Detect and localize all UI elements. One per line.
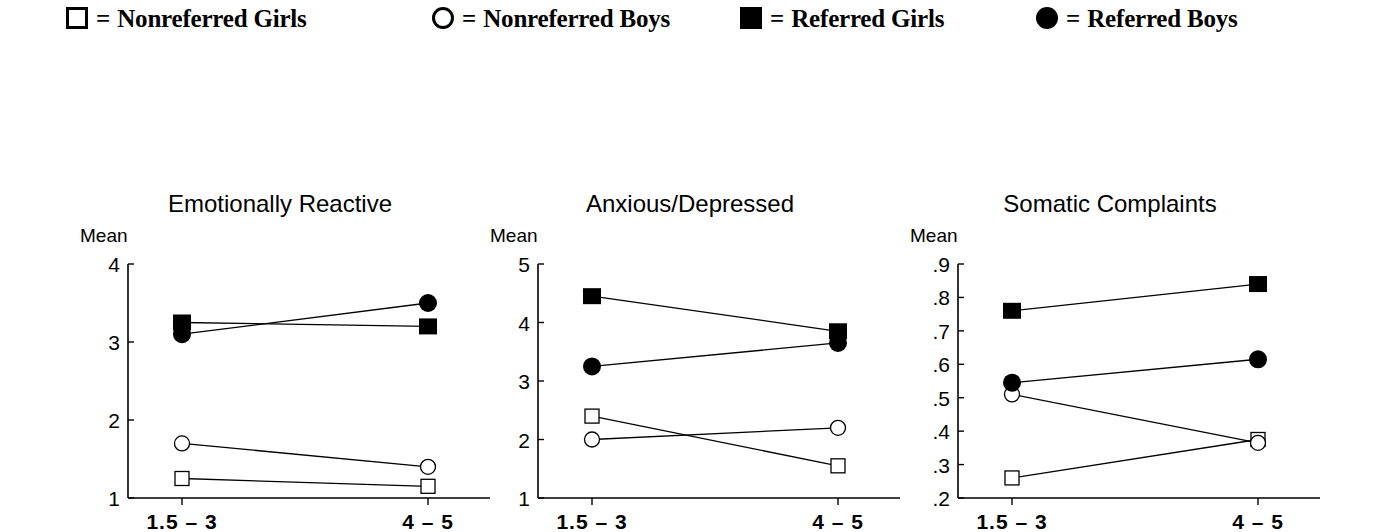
filled-circle-marker-icon: [1036, 7, 1058, 29]
y-axis-tick-label: .3: [932, 454, 950, 477]
y-axis-tick-label: .8: [932, 286, 950, 309]
series-line: [182, 479, 428, 487]
series-line: [182, 303, 428, 334]
data-point-filled-square: [419, 318, 437, 334]
y-axis-tick-label: .9: [932, 253, 950, 276]
y-axis-tick-label: .5: [932, 387, 950, 410]
y-axis-tick-label: 4: [518, 312, 530, 335]
y-axis-tick-label: 1: [108, 487, 120, 510]
y-axis-tick-label: .7: [932, 320, 950, 343]
y-axis-tick-label: 2: [518, 429, 530, 452]
chart-panel-somatic-complaints: Somatic ComplaintsMean.2.3.4.5.6.7.8.91.…: [890, 190, 1330, 532]
x-axis-tick-label: 1.5 – 3: [556, 510, 627, 532]
plot-area: 12341.5 – 34 – 5: [60, 190, 500, 532]
open-circle-marker-icon: [432, 7, 454, 29]
data-point-filled-circle: [419, 294, 437, 312]
y-axis-tick-label: 4: [108, 253, 120, 276]
y-axis-tick-label: 1: [518, 487, 530, 510]
legend-item-nonreferred-boys: =Nonreferred Boys: [432, 2, 670, 34]
data-point-filled-circle: [829, 334, 847, 352]
legend-item-referred-girls: =Referred Girls: [740, 2, 944, 34]
plot-area: .2.3.4.5.6.7.8.91.5 – 34 – 5: [890, 190, 1330, 532]
y-axis-tick-label: 3: [518, 370, 530, 393]
legend-item-nonreferred-girls: =Nonreferred Girls: [66, 2, 307, 34]
series-line: [592, 296, 838, 331]
data-point-open-square: [585, 409, 599, 423]
data-point-open-square: [1005, 471, 1019, 485]
x-axis-tick-label: 4 – 5: [812, 510, 864, 532]
legend: =Nonreferred Girls=Nonreferred Boys=Refe…: [0, 0, 1382, 40]
y-axis-tick-label: .4: [932, 420, 950, 443]
series-line: [1012, 284, 1258, 311]
series-line: [1012, 359, 1258, 382]
series-line: [1012, 440, 1258, 478]
data-point-open-circle: [1251, 435, 1266, 450]
series-line: [182, 443, 428, 466]
legend-item-label: Referred Girls: [791, 6, 944, 31]
data-point-filled-square: [1003, 303, 1021, 319]
legend-item-label: Referred Boys: [1087, 6, 1237, 31]
data-point-filled-circle: [173, 325, 191, 343]
y-axis-tick-label: .2: [932, 487, 950, 510]
data-point-filled-square: [583, 288, 601, 304]
data-point-open-square: [831, 459, 845, 473]
x-axis-tick-label: 1.5 – 3: [976, 510, 1047, 532]
legend-item-label: Nonreferred Boys: [483, 6, 670, 31]
chart-panel-anxious-depressed: Anxious/DepressedMean123451.5 – 34 – 5: [470, 190, 910, 532]
x-axis-tick-label: 4 – 5: [1232, 510, 1284, 532]
y-axis-tick-label: 2: [108, 409, 120, 432]
open-square-marker-icon: [66, 7, 88, 29]
data-point-open-square: [421, 479, 435, 493]
data-point-filled-circle: [583, 357, 601, 375]
series-line: [182, 323, 428, 327]
chart-panel-emotionally-reactive: Emotionally ReactiveMean12341.5 – 34 – 5: [60, 190, 500, 532]
data-point-open-circle: [831, 420, 846, 435]
series-line: [592, 428, 838, 440]
legend-item-referred-boys: =Referred Boys: [1036, 2, 1238, 34]
legend-equals-sign: =: [770, 6, 784, 31]
data-point-filled-circle: [1249, 350, 1267, 368]
y-axis-tick-label: .6: [932, 353, 950, 376]
data-point-filled-square: [1249, 276, 1267, 292]
legend-equals-sign: =: [1066, 6, 1080, 31]
x-axis-tick-label: 4 – 5: [402, 510, 454, 532]
filled-square-marker-icon: [740, 7, 762, 29]
data-point-open-square: [175, 472, 189, 486]
series-line: [1012, 394, 1258, 442]
data-point-open-circle: [585, 432, 600, 447]
data-point-open-circle: [175, 436, 190, 451]
y-axis-tick-label: 3: [108, 331, 120, 354]
y-axis-tick-label: 5: [518, 253, 530, 276]
legend-equals-sign: =: [462, 6, 476, 31]
plot-area: 123451.5 – 34 – 5: [470, 190, 910, 532]
series-line: [592, 343, 838, 366]
data-point-open-circle: [421, 459, 436, 474]
legend-item-label: Nonreferred Girls: [117, 6, 306, 31]
series-line: [592, 416, 838, 466]
data-point-filled-circle: [1003, 374, 1021, 392]
legend-equals-sign: =: [96, 6, 110, 31]
x-axis-tick-label: 1.5 – 3: [146, 510, 217, 532]
